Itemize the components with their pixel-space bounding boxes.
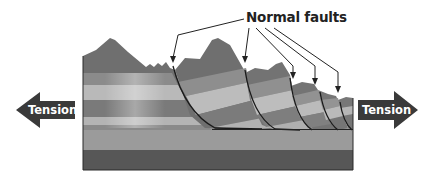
tension-label-left: Tension [28, 103, 77, 117]
cross-section-figure [0, 0, 432, 181]
base-strata [83, 128, 353, 170]
normal-faults-diagram: Normal faults Tension Tension [0, 0, 432, 181]
tension-label-right: Tension [362, 103, 411, 117]
normal-faults-label: Normal faults [246, 9, 347, 25]
